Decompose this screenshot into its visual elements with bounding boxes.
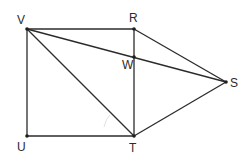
label-R: R xyxy=(129,11,138,25)
segment-VT xyxy=(27,29,134,136)
label-W: W xyxy=(122,58,134,72)
label-U: U xyxy=(17,140,26,154)
label-V: V xyxy=(17,13,25,27)
point-U xyxy=(25,134,29,138)
scan-artifact xyxy=(104,115,110,127)
segment-TS xyxy=(134,82,226,136)
point-R xyxy=(132,27,136,31)
point-T xyxy=(132,134,136,138)
label-T: T xyxy=(129,141,137,155)
point-S xyxy=(224,80,228,84)
label-S: S xyxy=(230,76,238,90)
segments xyxy=(27,29,226,136)
points xyxy=(25,27,228,138)
point-V xyxy=(25,27,29,31)
segment-VS xyxy=(27,29,226,82)
labels: V R W S U T xyxy=(17,11,238,155)
geometry-diagram: V R W S U T xyxy=(0,0,251,161)
segment-RS xyxy=(134,29,226,82)
